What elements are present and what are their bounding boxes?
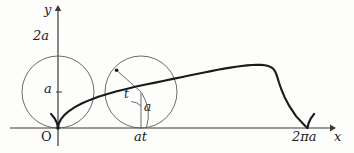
tracing-point-marker [115, 68, 119, 72]
x-label-2pia: 2πa [292, 130, 317, 143]
angle-t-label: t [124, 88, 129, 100]
cusp-tail-origin [51, 114, 58, 128]
origin-label: O [41, 130, 52, 143]
x-axis-label: x [334, 130, 341, 143]
cusp-tails-group [51, 114, 314, 128]
cycloid-figure: y 2a a O t a at 2πa x [0, 0, 354, 153]
y-axis-label: y [44, 3, 51, 16]
x-label-at: at [134, 130, 147, 143]
angle-t-arc [131, 102, 141, 106]
radius-a-label: a [144, 101, 151, 113]
cycloid-curve [58, 65, 308, 128]
y-label-a: a [44, 82, 52, 95]
cusp-tail-period [308, 114, 315, 128]
y-label-2a: 2a [33, 29, 49, 42]
construction-lines-group [56, 68, 148, 129]
y-axis-arrow-icon [55, 5, 62, 11]
